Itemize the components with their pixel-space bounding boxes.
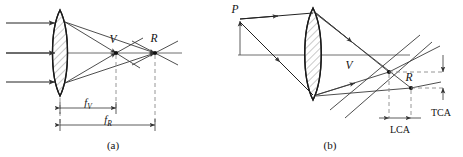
- label-fV: fV: [84, 97, 93, 111]
- label-violet-focus-a: V: [109, 33, 118, 45]
- caption-panel-a: (a): [107, 139, 120, 152]
- figure-canvas: V R fV fR (a) P: [0, 0, 463, 157]
- violet-focus-point-a: [114, 51, 118, 55]
- label-LCA: LCA: [390, 124, 411, 135]
- label-fR: fR: [104, 114, 112, 128]
- panel-a: V R fV fR (a): [6, 10, 182, 152]
- label-violet-image-b: V: [345, 59, 354, 71]
- chromatic-aberration-figure: V R fV fR (a) P: [0, 0, 463, 157]
- red-focus-point-a: [153, 51, 157, 55]
- dimension-fV: fV: [60, 97, 116, 114]
- label-red-focus-a: R: [149, 32, 157, 44]
- refracted-rays-b: [316, 13, 441, 118]
- biconvex-lens-b: [305, 8, 322, 100]
- label-TCA: TCA: [431, 107, 452, 118]
- label-object-point-P: P: [230, 3, 238, 15]
- caption-panel-b: (b): [324, 139, 337, 152]
- panel-b: P: [230, 3, 451, 152]
- dimension-LCA: LCA: [379, 118, 421, 135]
- dimension-TCA: TCA: [431, 55, 452, 118]
- incoming-rays-a: [6, 23, 55, 82]
- dimension-fR: fR: [60, 114, 155, 131]
- incident-rays-b: [240, 13, 313, 95]
- object-point-P: P: [230, 3, 240, 55]
- label-red-image-b: R: [404, 71, 412, 83]
